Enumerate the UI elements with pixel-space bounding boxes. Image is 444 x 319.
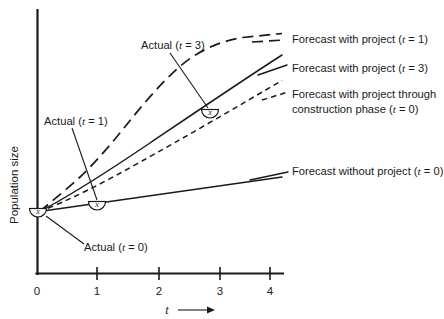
legend-item-without-project: Forecast without project (t = 0) bbox=[292, 165, 444, 177]
x-axis-label: t bbox=[165, 303, 169, 317]
x-axis-arrow bbox=[178, 307, 215, 314]
series-forecast-without-project bbox=[40, 177, 283, 212]
legend-item-0-prefix: Forecast with project ( bbox=[292, 33, 402, 45]
legend-item-0-suffix: = 1) bbox=[405, 33, 428, 45]
marker-actual-t3[interactable]: x bbox=[202, 108, 219, 118]
legend-stub-t3 bbox=[258, 65, 287, 75]
x-tick-label-3: 3 bbox=[217, 285, 223, 297]
annotation-actual-t1-suffix: = 1) bbox=[85, 115, 108, 127]
series-forecast-with-project-t3 bbox=[40, 55, 283, 212]
annotation-actual-t0: Actual (t = 0) bbox=[84, 241, 148, 253]
annotation-labels: Actual (t = 0) Actual (t = 1) Actual (t … bbox=[44, 39, 205, 253]
legend-item-2-line2: construction phase ( bbox=[292, 103, 393, 115]
annotation-actual-t3-suffix: = 3) bbox=[182, 39, 205, 51]
marker-actual-t0[interactable]: x bbox=[30, 207, 47, 217]
legend-stub-construction bbox=[262, 92, 288, 100]
legend-labels: Forecast with project (t = 1) Forecast w… bbox=[292, 33, 444, 177]
annotation-actual-t0-suffix: = 0) bbox=[125, 241, 148, 253]
chart-svg: 0 1 2 3 4 t Population size bbox=[0, 0, 444, 319]
marker-actual-t1[interactable]: x bbox=[89, 200, 106, 210]
legend-item-1-suffix: = 3) bbox=[405, 62, 428, 74]
legend-item-forecast-t1: Forecast with project (t = 1) bbox=[292, 33, 428, 45]
legend-item-1-prefix: Forecast with project ( bbox=[292, 62, 402, 74]
leader-actual-t0 bbox=[46, 216, 84, 244]
legend-stub-t1 bbox=[252, 40, 284, 42]
chart-figure: 0 1 2 3 4 t Population size bbox=[0, 0, 444, 319]
leader-actual-t3 bbox=[170, 53, 208, 108]
legend-item-3-suffix: = 0) bbox=[421, 165, 444, 177]
legend-item-2-prefix: Forecast with project through bbox=[292, 88, 436, 100]
legend-item-construction-line1: Forecast with project through bbox=[292, 88, 436, 100]
annotation-actual-t1: Actual (t = 1) bbox=[44, 115, 108, 127]
marker-glyph-t3: x bbox=[207, 108, 212, 117]
y-axis-label: Population size bbox=[8, 146, 20, 224]
marker-glyph-t1: x bbox=[94, 200, 99, 209]
x-tick-labels: 0 1 2 3 4 bbox=[34, 285, 274, 297]
legend-item-construction-line2: construction phase (t = 0) bbox=[292, 103, 419, 115]
legend-item-forecast-t3: Forecast with project (t = 3) bbox=[292, 62, 428, 74]
annotation-actual-t1-prefix: Actual ( bbox=[44, 115, 82, 127]
legend-item-3-prefix: Forecast without project ( bbox=[292, 165, 418, 177]
x-tick-label-2: 2 bbox=[156, 285, 162, 297]
annotation-actual-t3-prefix: Actual ( bbox=[141, 39, 179, 51]
x-tick-label-1: 1 bbox=[94, 285, 100, 297]
annotation-actual-t3: Actual (t = 3) bbox=[141, 39, 205, 51]
legend-leader-stubs bbox=[250, 40, 288, 180]
annotation-leaders bbox=[46, 53, 208, 244]
annotation-actual-t0-prefix: Actual ( bbox=[84, 241, 122, 253]
x-tick-label-4: 4 bbox=[267, 285, 274, 297]
marker-glyph-t0: x bbox=[35, 207, 40, 216]
legend-item-2-suffix: = 0) bbox=[396, 103, 419, 115]
x-tick-label-0: 0 bbox=[34, 285, 40, 297]
series-forecast-construction-phase bbox=[40, 81, 283, 212]
